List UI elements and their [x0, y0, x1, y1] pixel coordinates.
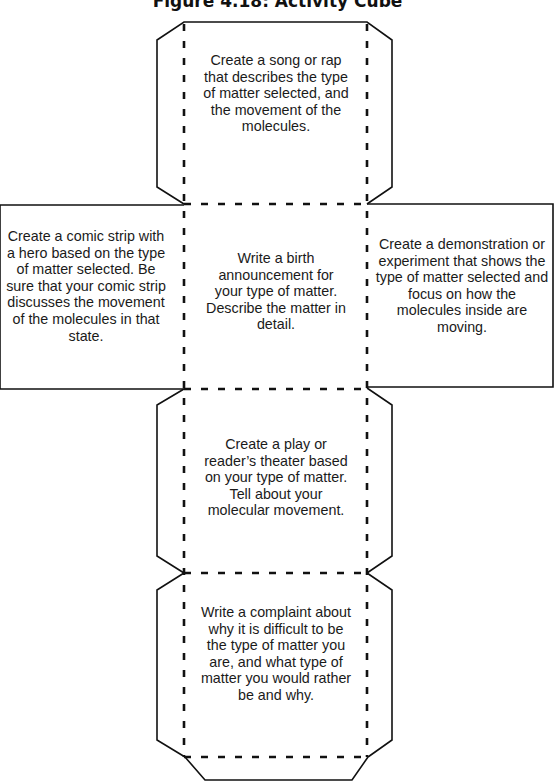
bottom-face-left-tab	[157, 573, 185, 757]
bottom-face-right-tab	[367, 573, 392, 757]
left-face-text: Create a comic strip with a hero based o…	[6, 228, 166, 344]
lower-face-right-tab	[367, 388, 392, 573]
lower-face-text: Create a play or reader’s theater based …	[198, 436, 354, 519]
bottom-flap-outline	[185, 757, 368, 780]
bottom-face-text: Write a complaint about why it is diffic…	[198, 604, 354, 704]
center-face-text: Write a birth announcement for your type…	[203, 250, 349, 333]
top-face-text: Create a song or rap that describes the …	[203, 52, 349, 135]
lower-face-left-tab	[157, 389, 184, 573]
right-face-text: Create a demonstration or experiment tha…	[374, 236, 550, 336]
